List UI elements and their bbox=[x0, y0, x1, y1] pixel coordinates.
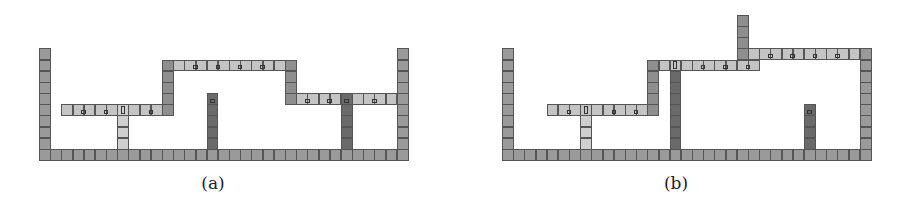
block-right-wall bbox=[860, 93, 872, 105]
block-floor bbox=[625, 149, 637, 161]
block-floor bbox=[692, 149, 704, 161]
block-floor bbox=[614, 149, 626, 161]
block-floor bbox=[591, 149, 603, 161]
block-floor bbox=[603, 149, 615, 161]
block-floor bbox=[737, 149, 749, 161]
block-high-riser bbox=[737, 37, 749, 49]
block-floor bbox=[770, 149, 782, 161]
square-marker-icon bbox=[746, 65, 751, 69]
square-marker-icon bbox=[790, 54, 795, 58]
block-dark-column bbox=[670, 93, 682, 105]
block-floor bbox=[502, 149, 514, 161]
block-right-wall bbox=[860, 60, 872, 72]
block-right-wall bbox=[860, 71, 872, 83]
square-marker-icon bbox=[768, 54, 773, 58]
block-right-wall bbox=[860, 48, 872, 60]
panel-b-caption: (b) bbox=[646, 173, 706, 193]
block-left-wall bbox=[502, 104, 514, 116]
square-marker-icon bbox=[634, 110, 639, 114]
block-right-wall bbox=[860, 82, 872, 94]
block-floor bbox=[580, 149, 592, 161]
block-floor bbox=[849, 149, 861, 161]
block-left-wall bbox=[502, 138, 514, 150]
block-dark-pillar-right bbox=[804, 115, 816, 127]
block-light-pillar bbox=[580, 138, 592, 150]
block-floor bbox=[726, 149, 738, 161]
block-light-pillar bbox=[580, 115, 592, 127]
block-left-platform bbox=[547, 104, 559, 116]
block-dark-column bbox=[670, 82, 682, 94]
square-marker-icon bbox=[701, 65, 706, 69]
block-right-wall bbox=[860, 104, 872, 116]
block-high-riser bbox=[737, 26, 749, 38]
block-floor bbox=[636, 149, 648, 161]
block-dark-pillar-right bbox=[804, 127, 816, 139]
block-high-riser bbox=[737, 48, 749, 60]
tall-marker-icon bbox=[584, 106, 588, 114]
block-high-platform bbox=[748, 48, 760, 60]
block-left-wall bbox=[502, 60, 514, 72]
square-marker-icon bbox=[612, 110, 617, 114]
block-left-platform bbox=[591, 104, 603, 116]
block-floor bbox=[569, 149, 581, 161]
block-right-wall bbox=[860, 115, 872, 127]
block-floor bbox=[513, 149, 525, 161]
block-floor bbox=[670, 149, 682, 161]
block-left-riser bbox=[647, 82, 659, 94]
block-floor bbox=[793, 149, 805, 161]
block-floor bbox=[647, 149, 659, 161]
block-left-wall bbox=[502, 93, 514, 105]
block-dark-column bbox=[670, 71, 682, 83]
block-left-wall bbox=[502, 115, 514, 127]
block-floor bbox=[759, 149, 771, 161]
block-high-riser bbox=[737, 15, 749, 27]
block-floor bbox=[815, 149, 827, 161]
block-floor bbox=[524, 149, 536, 161]
block-dark-column bbox=[670, 138, 682, 150]
block-left-wall bbox=[502, 48, 514, 60]
block-floor bbox=[837, 149, 849, 161]
block-floor bbox=[659, 149, 671, 161]
block-left-riser bbox=[647, 104, 659, 116]
block-floor bbox=[558, 149, 570, 161]
block-floor bbox=[782, 149, 794, 161]
block-floor bbox=[826, 149, 838, 161]
block-left-riser bbox=[647, 93, 659, 105]
block-left-wall bbox=[502, 127, 514, 139]
block-floor bbox=[536, 149, 548, 161]
block-floor bbox=[681, 149, 693, 161]
square-marker-icon bbox=[813, 54, 818, 58]
block-light-pillar bbox=[580, 127, 592, 139]
panel-b: (b) bbox=[0, 0, 902, 210]
block-floor bbox=[547, 149, 559, 161]
block-floor bbox=[703, 149, 715, 161]
block-floor bbox=[804, 149, 816, 161]
block-floor bbox=[748, 149, 760, 161]
block-left-wall bbox=[502, 82, 514, 94]
square-marker-icon bbox=[723, 65, 728, 69]
square-marker-icon bbox=[807, 110, 812, 114]
block-floor bbox=[714, 149, 726, 161]
block-upper-platform bbox=[681, 60, 693, 72]
square-marker-icon bbox=[567, 110, 572, 114]
block-upper-platform bbox=[659, 60, 671, 72]
block-dark-column bbox=[670, 127, 682, 139]
block-floor bbox=[860, 149, 872, 161]
block-left-riser bbox=[647, 71, 659, 83]
block-dark-pillar-right bbox=[804, 138, 816, 150]
square-marker-icon bbox=[835, 54, 840, 58]
tall-marker-icon bbox=[673, 61, 677, 69]
block-right-wall bbox=[860, 127, 872, 139]
block-dark-column bbox=[670, 115, 682, 127]
block-high-platform bbox=[849, 48, 861, 60]
block-left-wall bbox=[502, 71, 514, 83]
block-dark-column bbox=[670, 104, 682, 116]
block-right-wall bbox=[860, 138, 872, 150]
block-left-riser bbox=[647, 60, 659, 72]
